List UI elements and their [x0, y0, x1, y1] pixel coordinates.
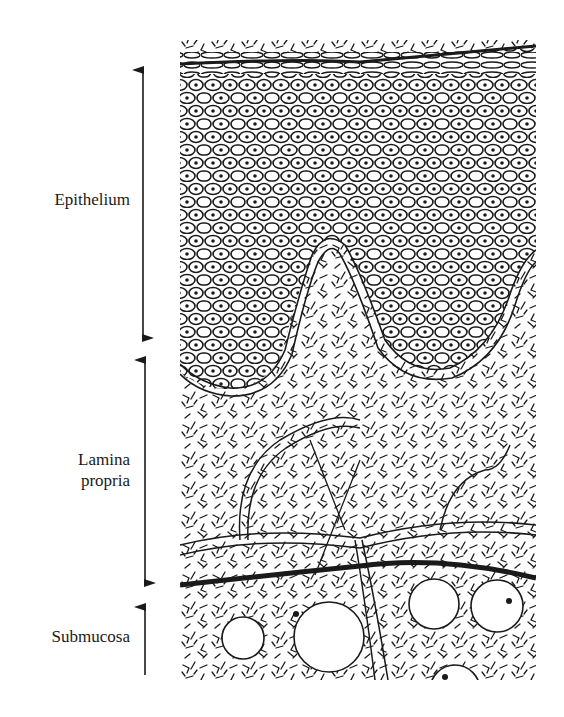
gland [471, 580, 523, 632]
gland [222, 617, 264, 659]
gland [409, 579, 459, 629]
tissue-diagram [0, 0, 564, 717]
gland [294, 602, 364, 672]
